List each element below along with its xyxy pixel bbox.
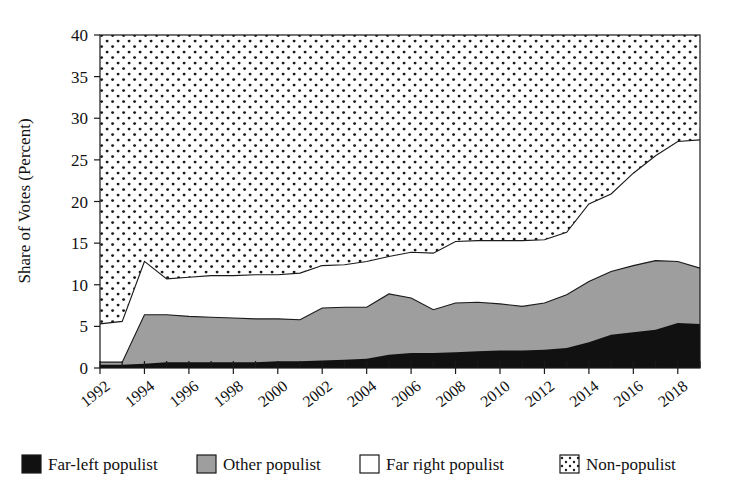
y-tick-label: 15 — [71, 234, 88, 253]
legend-item: Far right populist — [360, 455, 504, 474]
plot-area — [100, 35, 700, 368]
y-axis-title: Share of Votes (Percent) — [15, 118, 34, 283]
y-tick-label: 25 — [71, 151, 88, 170]
legend-item: Non-populist — [560, 455, 676, 474]
x-tick-label: 2012 — [522, 377, 558, 410]
legend-label: Other populist — [223, 455, 321, 474]
x-tick-label: 2016 — [610, 377, 646, 410]
legend-swatch-dotted-fill — [560, 455, 579, 473]
x-tick-label: 1996 — [166, 377, 202, 410]
legend-label: Far-left populist — [48, 455, 158, 474]
x-tick-label: 2004 — [344, 377, 380, 410]
x-tick-label: 2006 — [388, 377, 424, 410]
legend-swatch-white-fill — [360, 455, 379, 473]
x-tick-label: 1992 — [77, 377, 113, 410]
y-tick-label: 30 — [71, 109, 88, 128]
legend-swatch-black-fill — [22, 455, 41, 473]
chart-figure: 0510152025303540 19921994199619982000200… — [0, 0, 739, 492]
legend-label: Far right populist — [386, 455, 504, 474]
y-tick-label: 40 — [71, 26, 88, 45]
legend-item: Other populist — [197, 455, 321, 474]
y-tick-label: 0 — [80, 359, 89, 378]
x-tick-label: 1994 — [122, 377, 158, 410]
y-tick-label: 35 — [71, 68, 88, 87]
y-tick-label: 10 — [71, 276, 88, 295]
x-tick-label: 2010 — [477, 377, 513, 410]
y-tick-label: 20 — [71, 193, 88, 212]
x-tick-label: 2000 — [255, 377, 291, 410]
x-tick-label: 2014 — [566, 377, 602, 410]
legend-label: Non-populist — [586, 455, 676, 474]
y-tick-label: 5 — [80, 317, 89, 336]
y-axis: 0510152025303540 — [71, 26, 100, 378]
x-tick-label: 2002 — [299, 377, 335, 410]
legend-item: Far-left populist — [22, 455, 158, 474]
chart-legend: Far-left populistOther populistFar right… — [22, 455, 676, 474]
legend-swatch-gray-fill — [197, 455, 216, 473]
x-tick-label: 1998 — [210, 377, 246, 410]
stacked-area-chart: 0510152025303540 19921994199619982000200… — [0, 0, 739, 492]
area-series-group — [100, 35, 700, 368]
x-tick-label: 2018 — [655, 377, 691, 410]
x-tick-label: 2008 — [433, 377, 469, 410]
